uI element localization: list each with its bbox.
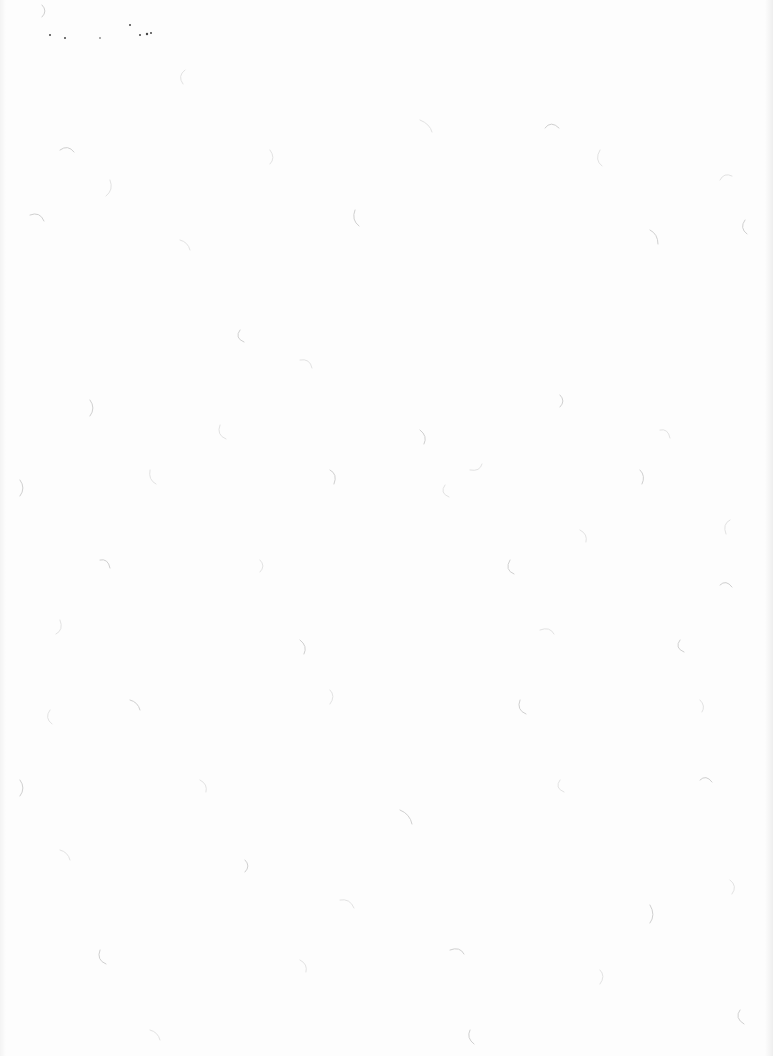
paper-fiber-texture: [0, 0, 773, 1056]
blank-paper-page: [0, 0, 773, 1056]
